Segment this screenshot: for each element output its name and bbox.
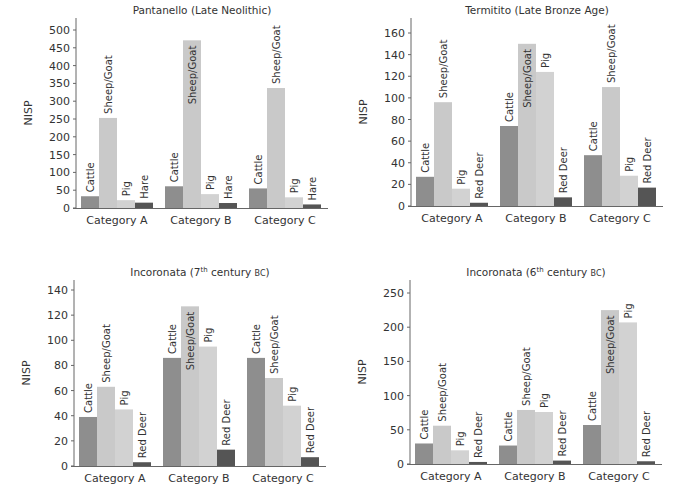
y-tick-label: 100 <box>47 334 68 347</box>
bar-hare <box>135 203 153 208</box>
y-tick-label: 160 <box>384 27 405 40</box>
chart-panel-2: Termitito (Late Bronze Age)0204060801001… <box>357 4 663 225</box>
y-tick-label: 250 <box>49 113 70 126</box>
bar-label: Hare <box>139 175 150 199</box>
bar-label: Sheep/Goat <box>438 39 449 98</box>
y-axis-title: NISP <box>356 359 369 384</box>
bar-sheep-goat <box>265 378 283 466</box>
bar-label: Red Deer <box>557 409 568 456</box>
bar-cattle <box>165 186 183 208</box>
x-category-label: Category C <box>254 214 316 227</box>
y-tick-label: 300 <box>49 95 70 108</box>
bar-sheep-goat <box>517 410 535 464</box>
bar-label: Cattle <box>588 121 599 151</box>
y-tick-label: 350 <box>49 77 70 90</box>
bar-label: Sheep/Goat <box>185 312 196 371</box>
bar-label: Sheep/Goat <box>271 25 282 84</box>
bar-label: Sheep/Goat <box>103 55 114 114</box>
bar-label: Pig <box>205 175 216 190</box>
bar-cattle <box>416 177 434 206</box>
y-tick-label: 0 <box>61 460 68 473</box>
x-category-label: Category B <box>170 214 231 227</box>
bar-pig <box>199 347 217 466</box>
x-category-label: Category A <box>86 214 148 227</box>
y-tick-label: 100 <box>49 166 70 179</box>
y-tick-label: 0 <box>397 458 404 471</box>
bar-label: Sheep/Goat <box>187 46 198 105</box>
y-tick-label: 140 <box>384 49 405 62</box>
bar-label: Cattle <box>83 383 94 413</box>
bar-cattle <box>81 196 99 208</box>
bar-label: Cattle <box>251 324 262 354</box>
figure-canvas: Pantanello (Late Neolithic)0501001502002… <box>0 0 678 503</box>
bar-sheep-goat <box>602 87 620 206</box>
bar-label: Pig <box>119 390 130 405</box>
bar-label: Pig <box>121 181 132 196</box>
y-tick-label: 140 <box>47 284 68 297</box>
bar-red-deer <box>301 457 319 466</box>
bar-label: Sheep/Goat <box>605 315 616 374</box>
bar-pig <box>452 189 470 206</box>
y-tick-label: 100 <box>383 390 404 403</box>
bar-red-deer <box>470 203 488 206</box>
bar-pig <box>620 176 638 206</box>
bar-red-deer <box>217 450 235 466</box>
bar-cattle <box>583 425 601 464</box>
y-tick-label: 40 <box>391 157 405 170</box>
bar-cattle <box>247 358 265 466</box>
bar-label: Pig <box>540 53 551 68</box>
bar-label: Red Deer <box>473 411 484 458</box>
bar-label: Pig <box>539 393 550 408</box>
chart-panel-3: Incoronata (7th century BC)0204060801001… <box>20 266 326 485</box>
y-tick-label: 450 <box>49 42 70 55</box>
y-axis-title: NISP <box>20 360 33 385</box>
x-category-label: Category B <box>168 472 229 485</box>
y-tick-label: 100 <box>384 92 405 105</box>
bar-label: Cattle <box>420 143 431 173</box>
bar-pig <box>536 72 554 206</box>
y-tick-label: 80 <box>54 359 68 372</box>
bar-pig <box>115 409 133 466</box>
bar-label: Red Deer <box>641 410 652 457</box>
bar-red-deer <box>469 462 487 464</box>
y-tick-label: 120 <box>47 309 68 322</box>
bar-label: Sheep/Goat <box>606 24 617 83</box>
x-category-label: Category A <box>420 470 482 483</box>
bar-pig <box>451 450 469 464</box>
bar-label: Pig <box>287 387 298 402</box>
y-tick-label: 20 <box>391 178 405 191</box>
bar-cattle <box>79 417 97 466</box>
y-tick-label: 40 <box>54 410 68 423</box>
y-axis-title: NISP <box>357 99 370 124</box>
bar-red-deer <box>554 197 572 206</box>
y-tick-label: 50 <box>56 184 70 197</box>
x-category-label: Category C <box>589 212 651 225</box>
bar-pig <box>283 406 301 466</box>
y-axis-title: NISP <box>22 100 35 125</box>
bar-pig <box>201 194 219 208</box>
y-tick-label: 0 <box>398 200 405 213</box>
bar-label: Hare <box>223 175 234 199</box>
bar-label: Pig <box>455 431 466 446</box>
bar-label: Red Deer <box>137 411 148 458</box>
bar-label: Cattle <box>85 162 96 192</box>
x-category-label: Category C <box>588 470 650 483</box>
bar-label: Pig <box>456 170 467 185</box>
y-tick-label: 120 <box>384 70 405 83</box>
chart-title: Incoronata (6th century BC) <box>466 266 605 278</box>
bar-label: Pig <box>289 178 300 193</box>
bar-pig <box>285 197 303 208</box>
chart-title: Termitito (Late Bronze Age) <box>464 4 609 16</box>
bar-label: Sheep/Goat <box>522 49 533 108</box>
chart-panel-4: Incoronata (6th century BC)0501001502002… <box>356 266 662 483</box>
bar-label: Cattle <box>503 412 514 442</box>
y-tick-label: 500 <box>49 24 70 37</box>
bar-cattle <box>415 443 433 464</box>
bar-cattle <box>249 188 267 208</box>
bar-red-deer <box>638 188 656 206</box>
bar-sheep-goat <box>434 102 452 206</box>
bar-label: Cattle <box>167 324 178 354</box>
chart-title: Incoronata (7th century BC) <box>130 266 269 278</box>
bar-red-deer <box>637 461 655 464</box>
bar-pig <box>619 322 637 464</box>
